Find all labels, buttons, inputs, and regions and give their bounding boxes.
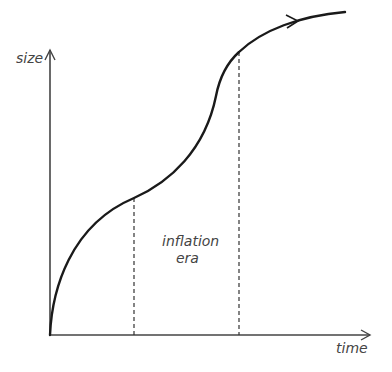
y-axis-label: size [16, 50, 43, 66]
region-label-inflation: inflation [162, 233, 219, 249]
diagram-canvas [0, 0, 392, 372]
region-label-era: era [176, 250, 199, 266]
x-axis [50, 330, 370, 340]
x-axis-label: time [336, 340, 368, 356]
y-axis [45, 50, 55, 335]
growth-curve [50, 12, 345, 335]
